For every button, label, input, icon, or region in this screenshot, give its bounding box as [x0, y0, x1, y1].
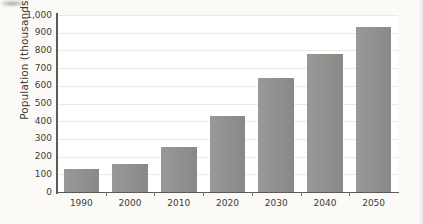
- bar-shading: [307, 54, 343, 192]
- x-axis-tick-label: 2000: [106, 198, 155, 208]
- x-axis-line: [56, 192, 399, 194]
- y-axis-tick-label: 1,000: [4, 11, 52, 20]
- y-axis-tick-label: 900: [4, 28, 52, 37]
- gridline: [57, 33, 398, 34]
- bar: [258, 78, 294, 192]
- bar-shading: [161, 147, 197, 192]
- plot-area: [57, 15, 398, 192]
- y-axis-tick-label: 100: [4, 170, 52, 179]
- y-axis-tick-label: 700: [4, 64, 52, 73]
- bar-shading: [64, 169, 100, 192]
- gridline: [57, 68, 398, 69]
- x-axis-tick-mark: [301, 192, 302, 196]
- bar: [307, 54, 343, 192]
- bar: [356, 27, 392, 193]
- gridline: [57, 15, 398, 16]
- x-axis-tick-mark: [154, 192, 155, 196]
- y-axis-tick-label: 400: [4, 117, 52, 126]
- x-axis-tick-label: 2020: [203, 198, 252, 208]
- bar-shading: [210, 116, 246, 192]
- x-axis-tick-mark: [252, 192, 253, 196]
- x-axis-tick-label: 1990: [57, 198, 106, 208]
- bar-shading: [112, 164, 148, 192]
- y-axis-tick-label: 0: [4, 188, 52, 197]
- bar-shading: [258, 78, 294, 192]
- x-axis-tick-label: 2010: [154, 198, 203, 208]
- bar: [210, 116, 246, 192]
- y-axis-tick-label: 300: [4, 134, 52, 143]
- gridline: [57, 50, 398, 51]
- gridline: [57, 104, 398, 105]
- gridline: [57, 86, 398, 87]
- y-axis-tick-labels: 01002003004005006007008009001,000: [0, 0, 52, 224]
- bar: [112, 164, 148, 192]
- bar-shading: [356, 27, 392, 193]
- y-axis-tick-label: 600: [4, 81, 52, 90]
- x-axis-tick-label: 2040: [301, 198, 350, 208]
- x-axis-tick-label: 2030: [252, 198, 301, 208]
- bar: [161, 147, 197, 192]
- bar-chart-figure: Population (thousands) 01002003004005006…: [0, 0, 423, 224]
- x-axis-tick-mark: [349, 192, 350, 196]
- y-axis-tick-label: 500: [4, 99, 52, 108]
- y-axis-tick-label: 800: [4, 46, 52, 55]
- x-axis-tick-mark: [203, 192, 204, 196]
- bar: [64, 169, 100, 192]
- scan-artifact-edge: [418, 0, 423, 224]
- x-axis-tick-label: 2050: [349, 198, 398, 208]
- x-axis-tick-mark: [106, 192, 107, 196]
- y-axis-line: [56, 13, 58, 194]
- y-axis-tick-label: 200: [4, 152, 52, 161]
